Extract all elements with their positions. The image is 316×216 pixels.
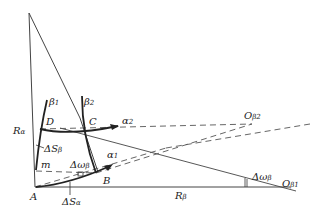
point-d: D <box>46 117 54 127</box>
label-dw-beta-outer: Δωβ <box>252 172 271 182</box>
alpha1-arrow-icon <box>104 164 113 171</box>
alpha2-arrow-icon <box>110 124 119 130</box>
label-alpha1: α1 <box>107 150 118 160</box>
label-ds-beta: ΔSβ <box>44 144 62 154</box>
label-alpha2: α2 <box>122 116 133 126</box>
label-beta2: β2 <box>84 97 94 107</box>
ds-beta-tick <box>36 145 44 148</box>
dashed-b-obeta2 <box>96 124 252 173</box>
dashed-d-obeta2 <box>40 124 252 129</box>
point-a: A <box>30 192 37 202</box>
label-o-beta1: Oβ1 <box>282 179 299 189</box>
label-ds-alpha: ΔSα <box>62 197 81 207</box>
label-r-beta: Rβ <box>175 191 187 201</box>
diagram-canvas: Rα β1 β2 D C α2 ΔSβ m Δωβ α1 B A ΔSα Rβ … <box>0 0 316 216</box>
point-m: m <box>41 160 50 170</box>
label-o-beta2: Oβ2 <box>244 111 261 121</box>
point-b: B <box>103 176 110 186</box>
point-c: C <box>89 117 97 127</box>
geometry-figure <box>0 0 316 216</box>
label-dw-beta-inner: Δωβ <box>70 160 89 170</box>
r-alpha-line <box>29 13 35 187</box>
label-beta1: β1 <box>49 97 59 107</box>
dashed-a-ray-ext <box>166 124 310 148</box>
label-r-alpha: Rα <box>13 126 25 136</box>
